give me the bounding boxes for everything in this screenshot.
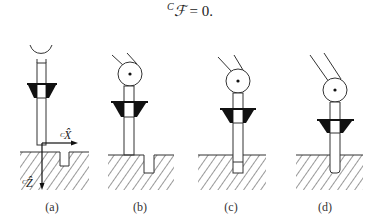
x-axis-label: C X̂ xyxy=(60,128,72,142)
x-axis-arrowhead xyxy=(71,141,78,146)
svg-text:Ẑ: Ẑ xyxy=(26,176,33,190)
panel-c xyxy=(198,55,266,190)
panel-label-d: (d) xyxy=(318,200,332,215)
workpiece-with-hole xyxy=(198,155,266,190)
workpiece-with-hole xyxy=(108,155,174,190)
panel-b xyxy=(108,53,174,190)
peg-rod xyxy=(37,63,46,145)
panel-d xyxy=(296,53,363,190)
panel-label-b: (b) xyxy=(133,200,147,215)
gripper-cup xyxy=(30,45,52,53)
peg-in-hole-diagram: C X̂ C Ẑ xyxy=(0,0,380,220)
peg-rod xyxy=(330,102,340,173)
peg-rod xyxy=(233,93,243,173)
panel-label-a: (a) xyxy=(45,200,58,215)
svg-text:X̂: X̂ xyxy=(63,128,72,142)
peg-rod xyxy=(124,86,134,155)
panel-label-c: (c) xyxy=(224,200,237,215)
panel-a xyxy=(20,45,89,190)
